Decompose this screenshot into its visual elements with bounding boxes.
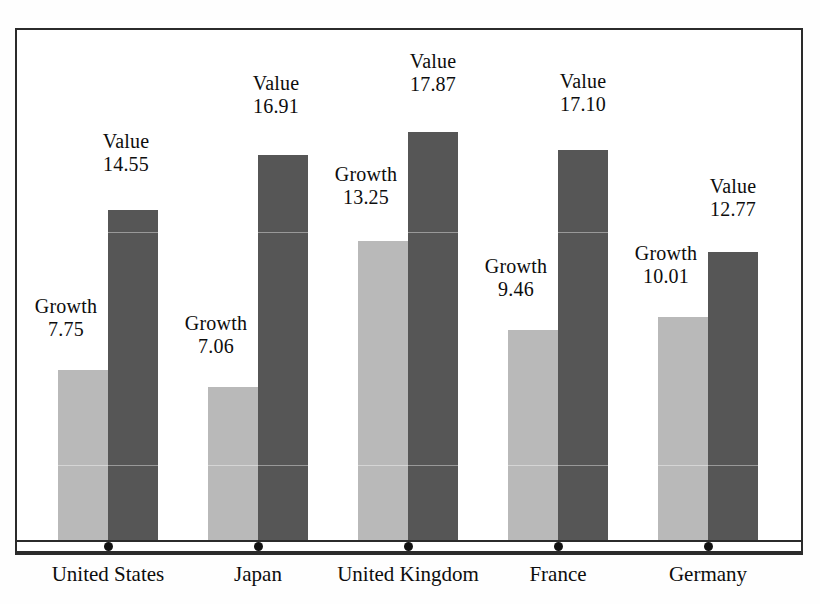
label-series-value: 12.77 — [680, 198, 786, 221]
label-series-name: Value — [530, 70, 636, 93]
label-series-name: Value — [680, 175, 786, 198]
label-series-name: Value — [73, 130, 179, 153]
x-axis-tick-france — [554, 542, 563, 551]
label-series-name: Growth — [306, 163, 426, 186]
label-growth-united-kingdom: Growth 13.25 — [306, 163, 426, 209]
label-series-value: 7.06 — [156, 335, 276, 358]
bar-value-united-states[interactable] — [108, 210, 158, 553]
label-growth-japan: Growth 7.06 — [156, 312, 276, 358]
x-axis-label-germany: Germany — [618, 562, 798, 586]
x-axis-tick-united-states — [104, 542, 113, 551]
label-series-name: Growth — [456, 255, 576, 278]
label-series-name: Value — [380, 50, 486, 73]
label-series-value: 13.25 — [306, 186, 426, 209]
label-value-germany: Value 12.77 — [680, 175, 786, 221]
label-series-value: 9.46 — [456, 278, 576, 301]
bar-growth-japan[interactable] — [208, 387, 258, 553]
label-value-united-states: Value 14.55 — [73, 130, 179, 176]
bar-growth-united-states[interactable] — [58, 370, 108, 553]
label-series-value: 14.55 — [73, 153, 179, 176]
label-series-name: Growth — [156, 312, 276, 335]
label-series-value: 16.91 — [223, 95, 329, 118]
x-axis-tick-japan — [254, 542, 263, 551]
label-series-name: Growth — [6, 295, 126, 318]
plot-area — [17, 30, 801, 553]
label-series-value: 10.01 — [606, 265, 726, 288]
bar-growth-germany[interactable] — [658, 317, 708, 553]
label-value-japan: Value 16.91 — [223, 72, 329, 118]
label-value-france: Value 17.10 — [530, 70, 636, 116]
chart-canvas: Growth 7.75 Value 14.55 Growth 7.06 Valu… — [0, 0, 820, 604]
label-growth-united-states: Growth 7.75 — [6, 295, 126, 341]
label-value-united-kingdom: Value 17.87 — [380, 50, 486, 96]
bar-value-france[interactable] — [558, 150, 608, 553]
label-series-name: Value — [223, 72, 329, 95]
bar-growth-france[interactable] — [508, 330, 558, 553]
bar-growth-united-kingdom[interactable] — [358, 241, 408, 553]
label-series-value: 17.10 — [530, 93, 636, 116]
x-axis-tick-united-kingdom — [404, 542, 413, 551]
x-axis-tick-germany — [704, 542, 713, 551]
bar-value-germany[interactable] — [708, 252, 758, 553]
label-series-value: 7.75 — [6, 318, 126, 341]
label-growth-france: Growth 9.46 — [456, 255, 576, 301]
label-series-name: Growth — [606, 242, 726, 265]
label-series-value: 17.87 — [380, 73, 486, 96]
label-growth-germany: Growth 10.01 — [606, 242, 726, 288]
